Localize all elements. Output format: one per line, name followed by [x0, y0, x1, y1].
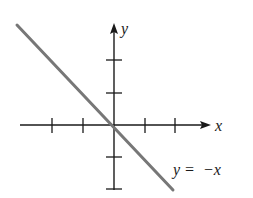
y-axis: y [106, 20, 129, 190]
y-axis-label: y [119, 20, 129, 38]
x-axis: x [20, 117, 222, 134]
x-axis-label: x [214, 117, 222, 134]
line-y-equals-neg-x [17, 25, 173, 190]
graph: x y y = −x [0, 0, 253, 198]
equation-label: y = −x [171, 161, 221, 179]
